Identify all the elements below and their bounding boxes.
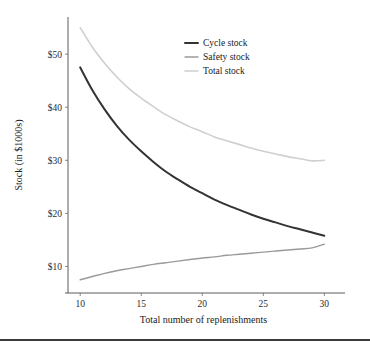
x-tick-label: 25 — [259, 299, 269, 309]
y-tick-label: $50 — [48, 50, 63, 60]
series-line-cycle-stock — [80, 67, 324, 235]
x-axis-title: Total number of replenishments — [140, 314, 267, 325]
chart-legend: Cycle stockSafety stockTotal stock — [185, 38, 250, 76]
x-tick-label: 10 — [75, 299, 85, 309]
line-chart: $10$20$30$40$50 1015202530 Total number … — [0, 0, 370, 349]
y-axis-title: Stock (in $1000s) — [13, 119, 25, 190]
chart-figure: $10$20$30$40$50 1015202530 Total number … — [0, 0, 370, 349]
series-line-safety-stock — [80, 244, 324, 280]
x-axis-ticks — [80, 293, 324, 296]
legend-label-total-stock: Total stock — [203, 66, 245, 76]
x-tick-label: 20 — [198, 299, 208, 309]
y-tick-label: $30 — [48, 156, 63, 166]
y-tick-label: $40 — [48, 103, 63, 113]
legend-label-safety-stock: Safety stock — [203, 52, 250, 62]
x-tick-label: 15 — [136, 299, 146, 309]
y-axis-tick-labels: $10$20$30$40$50 — [48, 50, 63, 272]
x-tick-label: 30 — [320, 299, 330, 309]
legend-label-cycle-stock: Cycle stock — [203, 38, 248, 48]
x-axis-tick-labels: 1015202530 — [75, 299, 329, 309]
y-tick-label: $20 — [48, 209, 63, 219]
y-tick-label: $10 — [48, 262, 63, 272]
